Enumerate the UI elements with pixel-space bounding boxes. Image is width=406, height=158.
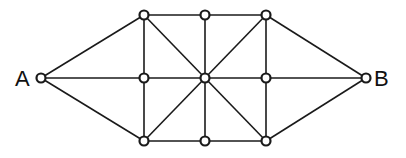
node-bm (201, 137, 210, 146)
node-c (201, 74, 210, 83)
node-b (362, 74, 371, 83)
node-tl (140, 11, 149, 20)
label-a: A (15, 66, 30, 91)
edge-tr-c (205, 15, 266, 78)
label-b: B (374, 66, 389, 91)
edge-b-tr (266, 15, 366, 78)
node-ml (140, 74, 149, 83)
edge-c-bl (144, 78, 205, 141)
edge-tl-c (144, 15, 205, 78)
edge-b-br (266, 78, 366, 141)
node-tr (262, 11, 271, 20)
node-a (37, 74, 46, 83)
edge-a-bl (41, 78, 144, 141)
node-mr (262, 74, 271, 83)
node-tm (201, 11, 210, 20)
graph-diagram: A B (0, 0, 406, 158)
node-bl (140, 137, 149, 146)
edge-a-tl (41, 15, 144, 78)
node-br (262, 137, 271, 146)
edge-c-br (205, 78, 266, 141)
